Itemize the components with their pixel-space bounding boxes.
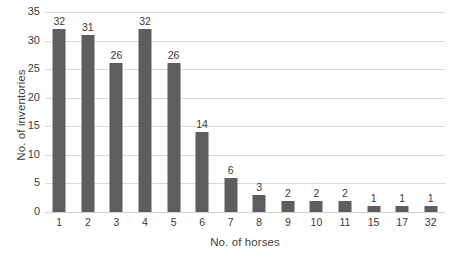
x-axis-tick-label: 32 xyxy=(425,216,437,229)
x-axis-tick-label: 5 xyxy=(171,216,177,229)
x-axis-tick-label: 9 xyxy=(285,216,291,229)
bar-value-label: 32 xyxy=(53,16,65,27)
bar[interactable] xyxy=(81,35,94,212)
x-axis-tick-labels: 1234567891011151732 xyxy=(45,216,445,232)
bar-value-label: 14 xyxy=(196,119,208,130)
bar[interactable] xyxy=(110,63,123,212)
y-axis-tick-label: 5 xyxy=(8,177,40,188)
bar[interactable] xyxy=(167,63,180,212)
bar-slot: 6 xyxy=(216,12,245,212)
bar-slot: 31 xyxy=(74,12,103,212)
bar[interactable] xyxy=(138,29,151,212)
bar[interactable] xyxy=(281,201,294,212)
bar-value-label: 31 xyxy=(82,22,94,33)
bar-slot: 2 xyxy=(302,12,331,212)
bar-slot: 2 xyxy=(274,12,303,212)
x-axis-tick-label: 11 xyxy=(340,216,351,229)
bar[interactable] xyxy=(338,201,351,212)
x-axis-tick-label: 8 xyxy=(256,216,262,229)
x-axis-tick-label: 6 xyxy=(199,216,205,229)
bar[interactable] xyxy=(53,29,66,212)
x-axis-tick-label: 17 xyxy=(396,216,408,229)
bar[interactable] xyxy=(367,206,380,212)
bar-value-label: 32 xyxy=(139,16,151,27)
x-axis-tick-label: 10 xyxy=(311,216,323,229)
y-axis-tick-labels: 05101520253035 xyxy=(0,12,40,212)
bar-slot: 1 xyxy=(359,12,388,212)
bar-slot: 3 xyxy=(245,12,274,212)
bar-slot: 1 xyxy=(388,12,417,212)
x-axis-tick-label: 1 xyxy=(56,216,62,229)
bar-slot: 14 xyxy=(188,12,217,212)
bar-value-label: 2 xyxy=(314,188,320,199)
y-axis-tick-label: 20 xyxy=(8,92,40,103)
y-axis-tick-label: 25 xyxy=(8,63,40,74)
bar-value-label: 1 xyxy=(399,193,405,204)
y-axis-tick-label: 15 xyxy=(8,120,40,131)
bar-chart: No. of inventories 05101520253035 323126… xyxy=(0,0,456,260)
y-axis-tick-label: 0 xyxy=(8,206,40,217)
y-axis-tick-label: 30 xyxy=(8,35,40,46)
bar-value-label: 2 xyxy=(342,188,348,199)
bar-value-label: 6 xyxy=(228,165,234,176)
bar-slot: 26 xyxy=(159,12,188,212)
x-axis-tick-label: 3 xyxy=(114,216,120,229)
bar[interactable] xyxy=(224,178,237,212)
bar-slot: 1 xyxy=(416,12,445,212)
bar-slot: 2 xyxy=(331,12,360,212)
bar-value-label: 26 xyxy=(111,50,123,61)
bar[interactable] xyxy=(196,132,209,212)
plot-area: 32312632261463222111 xyxy=(45,12,445,212)
y-axis-tick-label: 35 xyxy=(8,6,40,17)
bar-value-label: 3 xyxy=(256,182,262,193)
bar-slot: 32 xyxy=(45,12,74,212)
y-axis-tick-label: 10 xyxy=(8,149,40,160)
bar-value-label: 26 xyxy=(168,50,180,61)
bar-value-label: 2 xyxy=(285,188,291,199)
bar-value-label: 1 xyxy=(428,193,434,204)
gridline xyxy=(45,212,445,213)
bar-slot: 26 xyxy=(102,12,131,212)
bar[interactable] xyxy=(310,201,323,212)
x-axis-tick-label: 7 xyxy=(228,216,234,229)
bar[interactable] xyxy=(253,195,266,212)
bar[interactable] xyxy=(424,206,437,212)
x-axis-tick-label: 2 xyxy=(85,216,91,229)
x-axis-tick-label: 4 xyxy=(142,216,148,229)
bar-value-label: 1 xyxy=(371,193,377,204)
bar-series: 32312632261463222111 xyxy=(45,12,445,212)
bar-slot: 32 xyxy=(131,12,160,212)
x-axis-title: No. of horses xyxy=(45,236,445,248)
bar[interactable] xyxy=(396,206,409,212)
x-axis-tick-label: 15 xyxy=(368,216,380,229)
